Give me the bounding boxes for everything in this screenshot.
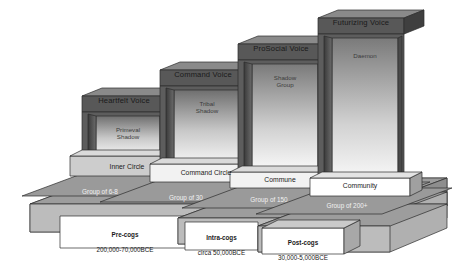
step-4-block <box>310 10 424 196</box>
staircase-illustration <box>0 0 460 276</box>
era-box-precogs <box>60 216 190 248</box>
era-box-postcogs <box>262 220 360 254</box>
diagram-canvas: Heartfelt Voice Command Voice ProSocial … <box>0 0 460 276</box>
era-box-intracogs <box>185 222 258 250</box>
